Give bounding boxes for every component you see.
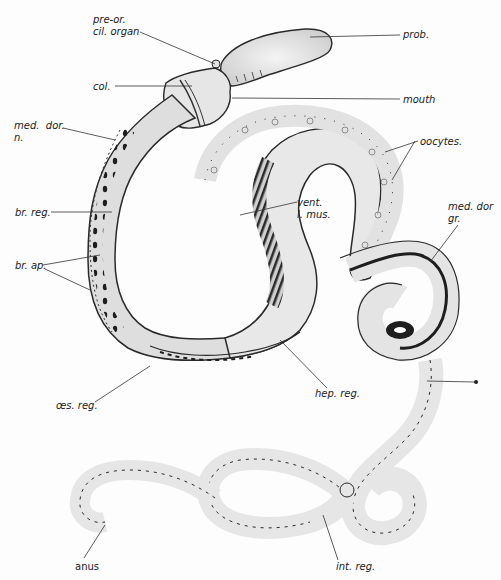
label-oocytes: oocytes. — [420, 136, 462, 148]
label-br-ap: br. ap. — [15, 260, 47, 272]
label-anus: anus — [75, 561, 99, 573]
right-coil — [340, 241, 459, 360]
label-pre-or-cil-organ: pre-or. cil. organ — [93, 14, 139, 38]
label-vent-l-mus: vent. l. mus. — [297, 197, 331, 221]
label-col: col. — [93, 81, 111, 93]
worm-illustration — [0, 0, 501, 580]
proboscis — [212, 29, 332, 86]
label-med-dor-gr: med. dor gr. — [448, 201, 493, 225]
label-hep-reg: hep. reg. — [315, 388, 360, 400]
label-prob: prob. — [403, 29, 429, 41]
unlabeled-marker-dot — [474, 380, 478, 384]
label-mouth: mouth — [403, 94, 435, 106]
label-int-reg: int. reg. — [336, 561, 375, 573]
intestinal-region — [80, 360, 431, 533]
label-br-reg: br. reg. — [15, 207, 51, 219]
label-oes-reg: œs. reg. — [56, 400, 98, 412]
label-med-dor-n: med. dor. n. — [14, 120, 65, 144]
figure-canvas: pre-or. cil. organ prob. col. mouth med.… — [0, 0, 501, 580]
